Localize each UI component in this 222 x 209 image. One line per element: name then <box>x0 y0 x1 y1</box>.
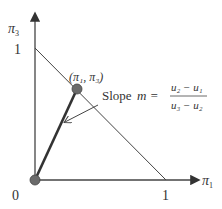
y-tick-one: 1 <box>14 42 21 57</box>
y-axis-label: π3 <box>8 21 19 38</box>
slope-line <box>35 89 77 180</box>
slope-var: m = <box>137 88 158 103</box>
slope-denominator: u₃ − u₂ <box>171 99 203 111</box>
x-tick-one: 1 <box>162 188 169 203</box>
x-axis-label: π1 <box>202 173 213 190</box>
slope-word: Slope <box>102 88 132 103</box>
slope-pointer <box>65 105 98 122</box>
point-label: (π₁, π₃) <box>69 70 103 84</box>
origin-label: 0 <box>12 188 19 203</box>
simplex-diagram: π3 1 0 1 π1 (π₁, π₃) Slope m = u₂ − u₁ u… <box>0 0 222 209</box>
belief-point <box>72 84 82 94</box>
slope-numerator: u₂ − u₁ <box>171 81 203 93</box>
simplex-edge <box>35 48 166 180</box>
origin-point <box>30 175 40 185</box>
